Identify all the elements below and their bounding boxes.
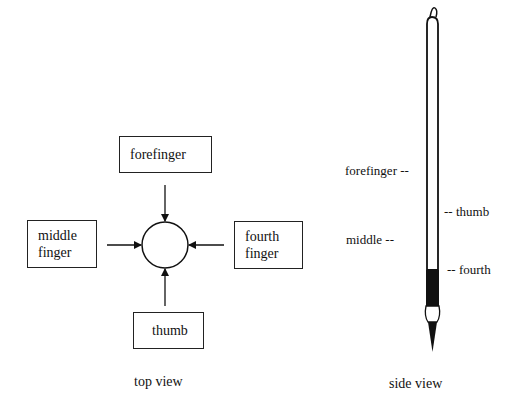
fourth-finger-label-line1: fourth [245,228,302,245]
forefinger-box: forefinger [119,136,212,173]
side-thumb-label: -- thumb [444,203,489,220]
middle-finger-box: middle finger [27,220,97,268]
thumb-box: thumb [133,312,204,349]
pen-ferrule [425,306,439,322]
side-view-caption: side view [389,375,442,392]
top-view-graphic [107,185,224,306]
pen-top-loop [430,8,437,17]
forefinger-label: forefinger [130,146,211,163]
pen-cross-section-circle [142,222,188,268]
fourth-finger-box: fourth finger [234,221,303,269]
pen-tip [428,322,437,352]
side-fourth-label: -- fourth [447,261,491,278]
pen-grip-band [426,270,439,306]
side-middle-label: middle -- [346,231,394,248]
pen-side-graphic [425,8,439,352]
side-forefinger-label: forefinger -- [345,162,409,179]
middle-finger-label-line2: finger [38,244,96,261]
pen-body [427,17,438,270]
thumb-label: thumb [152,322,203,339]
top-view-caption: top view [134,373,183,390]
middle-finger-label-line1: middle [38,227,96,244]
fourth-finger-label-line2: finger [245,245,302,262]
